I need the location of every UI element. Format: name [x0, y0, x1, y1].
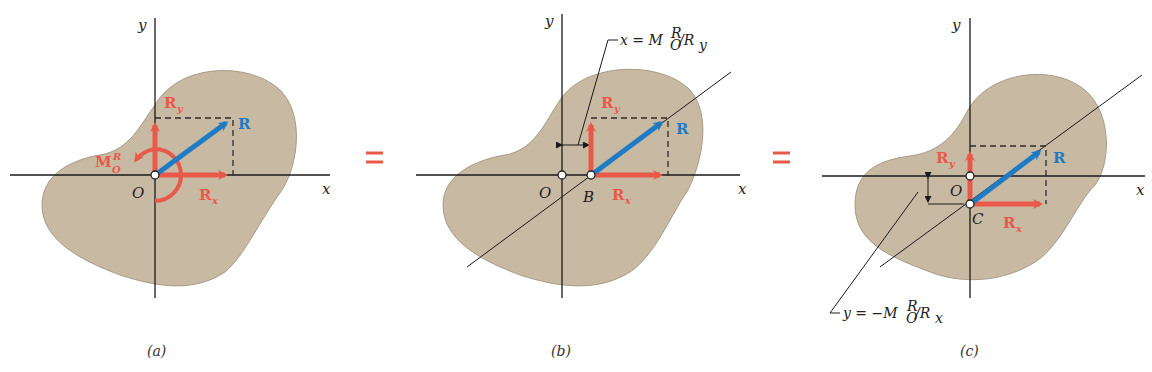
y-axis-label: y — [544, 12, 554, 30]
svg-text:R: R — [612, 186, 625, 204]
svg-text:/R: /R — [913, 305, 931, 321]
origin-label: O — [132, 184, 144, 202]
svg-text:R: R — [1003, 214, 1016, 232]
rigid-body-shape — [855, 74, 1106, 279]
point-b — [587, 171, 595, 179]
equation-x: x = M R O /R y — [620, 25, 708, 53]
equals-sign-1 — [366, 153, 383, 162]
svg-text:x: x — [211, 195, 219, 206]
origin-point — [966, 172, 974, 180]
statics-figure: x y O R R y R x M R O (a) — [0, 0, 1152, 372]
origin-label: O — [539, 184, 551, 202]
caption-a: (a) — [147, 343, 166, 359]
panel-a: x y O R R y R x M R O (a) — [10, 16, 331, 359]
point-b-label: B — [582, 188, 594, 206]
origin-point — [151, 171, 159, 179]
svg-text:x: x — [935, 310, 943, 326]
resultant-label: R — [676, 120, 689, 138]
resultant-label: R — [238, 115, 251, 133]
resultant-label: R — [1053, 149, 1066, 167]
svg-text:O: O — [112, 164, 121, 175]
svg-text:x = M: x = M — [620, 32, 664, 48]
equation-y: y = −M R O /R x — [842, 298, 943, 326]
point-c — [966, 200, 974, 208]
svg-text:R: R — [164, 94, 177, 112]
svg-text:R: R — [601, 94, 614, 112]
panel-c: x y O C R R y R x y = −M R O /R x (c) — [822, 16, 1145, 359]
equals-sign-2 — [773, 153, 790, 162]
point-c-label: C — [972, 210, 984, 228]
svg-text:y: y — [698, 37, 708, 53]
svg-text:y: y — [176, 103, 184, 114]
svg-text:y: y — [948, 158, 956, 169]
origin-point — [558, 171, 566, 179]
caption-b: (b) — [551, 343, 571, 359]
svg-text:R: R — [936, 149, 949, 167]
svg-text:y = −M: y = −M — [842, 305, 898, 321]
origin-label: O — [950, 182, 962, 200]
x-axis-label: x — [322, 180, 331, 198]
svg-text:R: R — [199, 186, 212, 204]
panel-b: x y O B R R y R x x = M R O /R y (b) — [416, 12, 747, 359]
x-axis-label: x — [738, 180, 747, 198]
y-axis-label: y — [951, 16, 961, 34]
caption-c: (c) — [960, 343, 979, 359]
x-axis-label: x — [1136, 181, 1145, 199]
svg-text:R: R — [112, 151, 121, 162]
svg-text:x: x — [624, 195, 632, 206]
svg-text:/R: /R — [677, 32, 695, 48]
y-axis-label: y — [137, 16, 147, 34]
rigid-body-shape — [443, 69, 703, 286]
svg-text:y: y — [613, 103, 621, 114]
svg-text:M: M — [95, 153, 112, 171]
svg-text:x: x — [1015, 223, 1023, 234]
